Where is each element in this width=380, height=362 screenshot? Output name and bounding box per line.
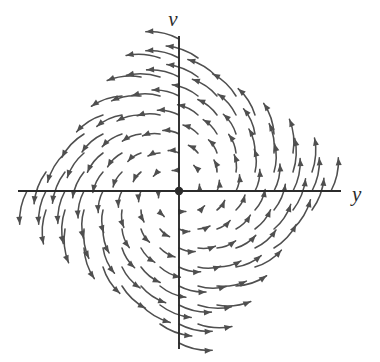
field-arrow-head xyxy=(146,28,154,34)
field-arrow-head xyxy=(162,318,170,324)
field-arrow-head xyxy=(126,51,134,57)
field-arrow-head xyxy=(87,164,93,172)
field-arrow-head xyxy=(63,255,69,263)
field-arrow-head xyxy=(207,246,215,252)
field-arrow-head xyxy=(204,310,212,316)
field-arrow-head xyxy=(336,158,342,166)
field-arrow-head xyxy=(277,164,283,172)
field-arrow-head xyxy=(182,229,190,235)
field-arrow-head xyxy=(153,169,160,177)
field-arrow-head xyxy=(118,219,124,227)
field-arrow-head xyxy=(259,276,267,283)
field-arrow-head xyxy=(107,75,115,81)
field-arrow-head xyxy=(97,119,105,126)
field-arrow-head xyxy=(197,206,204,214)
field-arrow-head xyxy=(137,111,145,117)
field-arrow-head xyxy=(91,100,99,107)
field-arrow-head xyxy=(35,217,41,225)
field-arrow-head xyxy=(289,119,295,127)
field-arrow-head xyxy=(198,289,206,295)
vector-field-canvas: y v xyxy=(0,0,380,362)
field-arrow-head xyxy=(213,74,221,80)
field-arrow-head xyxy=(313,138,319,146)
field-arrow-head xyxy=(224,325,232,331)
field-arrow-head xyxy=(142,235,150,242)
field-arrow-head xyxy=(143,130,151,136)
field-arrow-head xyxy=(62,149,68,157)
field-arrow-head xyxy=(205,329,213,335)
origin-point-marker xyxy=(175,187,183,195)
field-arrow-head xyxy=(188,59,196,65)
field-arrow-head xyxy=(95,205,101,213)
axes-group xyxy=(18,36,341,349)
field-arrow-head xyxy=(135,194,141,202)
field-arrow-head xyxy=(217,180,223,188)
field-arrow-head xyxy=(132,91,140,97)
field-arrow-head xyxy=(188,249,196,255)
field-arrow-head xyxy=(146,47,154,53)
field-arrow-head xyxy=(16,217,22,225)
field-arrow-head xyxy=(122,240,129,248)
field-arrow-head xyxy=(107,265,114,273)
field-arrow-head xyxy=(317,158,323,166)
field-arrow-head xyxy=(209,140,217,147)
field-arrow-head xyxy=(306,200,312,208)
field-arrow-head xyxy=(163,127,171,133)
field-arrow-head xyxy=(237,175,243,183)
field-arrow-head xyxy=(264,103,271,111)
field-arrow-head xyxy=(148,150,156,156)
field-arrow-head xyxy=(54,216,60,224)
field-arrow-head xyxy=(192,79,200,85)
field-arrow-head xyxy=(223,221,230,229)
field-arrow-head xyxy=(228,241,236,248)
field-arrow-head xyxy=(167,252,175,258)
vector-field-figure: y v xyxy=(0,0,380,362)
field-arrow-head xyxy=(253,256,261,263)
field-arrow-head xyxy=(168,147,176,153)
field-arrow-head xyxy=(202,226,210,232)
field-arrow-head xyxy=(157,107,165,113)
field-arrow-head xyxy=(99,225,105,233)
field-arrow-head xyxy=(158,298,166,304)
field-arrow-head xyxy=(147,66,155,72)
field-arrow-head xyxy=(79,230,85,238)
field-arrow-head xyxy=(152,87,160,93)
field-arrow-head xyxy=(229,134,236,142)
field-arrow-head xyxy=(128,154,135,162)
field-arrow-head xyxy=(286,204,292,212)
field-arrow-head xyxy=(265,210,271,218)
field-arrow-head xyxy=(198,99,206,105)
field-arrow-head xyxy=(39,236,45,244)
field-arrow-head xyxy=(122,134,130,141)
field-arrow-head xyxy=(240,195,246,203)
field-arrow-head xyxy=(257,169,263,177)
horizontal-axis-label: y xyxy=(350,182,362,206)
field-arrow-head xyxy=(234,155,240,163)
field-arrow-head xyxy=(244,109,251,117)
field-arrow-head xyxy=(75,210,81,218)
field-arrow-head xyxy=(193,269,201,275)
vertical-axis-label: v xyxy=(168,7,178,31)
field-arrow-head xyxy=(157,209,165,216)
field-arrow-head xyxy=(138,214,144,222)
field-arrow-head xyxy=(67,170,73,178)
field-arrow-head xyxy=(194,165,202,172)
field-arrow-head xyxy=(298,159,304,167)
field-arrow-head xyxy=(88,271,95,279)
field-arrow-head xyxy=(152,277,160,283)
field-arrow-head xyxy=(243,301,251,307)
field-arrow-head xyxy=(205,348,213,354)
field-arrow-head xyxy=(47,174,53,182)
field-arrow-head xyxy=(112,179,118,187)
field-arrow-head xyxy=(214,160,220,168)
field-arrow-head xyxy=(115,200,121,208)
field-arrow-head xyxy=(183,124,191,130)
